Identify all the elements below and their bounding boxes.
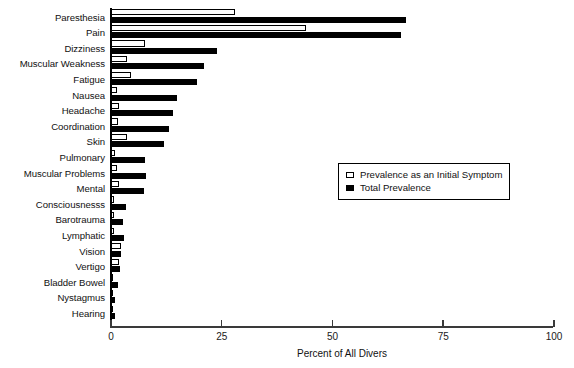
x-axis-title-text: Percent of All Divers [297,348,387,359]
category-label: Muscular Weakness [20,58,105,69]
bar-initial-symptom [111,181,119,187]
category-label: Bladder Bowel [44,276,105,287]
bar-total-prevalence [111,32,401,38]
chart-row: Hearing [0,304,574,321]
bar-total-prevalence [111,188,144,194]
bar-total-prevalence [111,251,121,257]
bar-initial-symptom [111,134,127,140]
bar-total-prevalence [111,235,124,241]
x-axis-tick-label: 75 [438,331,449,342]
x-axis-tick [553,320,555,327]
bar-total-prevalence [111,95,177,101]
y-axis-line [110,8,112,320]
bar-chart: ParesthesiaPainDizzinessMuscular Weaknes… [0,0,574,368]
category-label: Fatigue [73,74,105,85]
category-label: Vision [79,245,105,256]
bar-initial-symptom [111,118,118,124]
legend-label-total-prevalence: Total Prevalence [360,182,431,193]
category-label: Mental [77,183,106,194]
bar-total-prevalence [111,141,164,147]
category-label: Headache [62,105,105,116]
bar-initial-symptom [111,40,145,46]
bar-initial-symptom [111,243,121,249]
bar-total-prevalence [111,79,197,85]
bar-initial-symptom [111,103,119,109]
x-axis-tick [442,320,444,327]
chart-rows: ParesthesiaPainDizzinessMuscular Weaknes… [0,0,574,312]
x-axis-tick-label: 100 [546,331,563,342]
category-label: Paresthesia [55,11,105,22]
category-label: Muscular Problems [24,167,105,178]
bar-initial-symptom [111,259,119,265]
category-label: Dizziness [64,42,105,53]
legend-item-total-prevalence: Total Prevalence [346,181,502,194]
legend-item-initial-symptom: Prevalence as an Initial Symptom [346,168,502,181]
bar-initial-symptom [111,25,306,31]
legend-swatch-open-square-icon [346,172,354,178]
x-axis-tick [332,320,334,327]
bar-total-prevalence [111,173,146,179]
category-label: Pulmonary [60,152,105,163]
x-axis-tick-label: 0 [108,331,114,342]
category-label: Vertigo [75,261,105,272]
category-label: Coordination [51,120,105,131]
category-label: Barotrauma [55,214,105,225]
bar-total-prevalence [111,63,204,69]
bar-total-prevalence [111,157,145,163]
bar-initial-symptom [111,9,235,15]
legend-label-initial-symptom: Prevalence as an Initial Symptom [360,169,502,180]
category-label: Consciousnesss [36,198,105,209]
bar-total-prevalence [111,204,126,210]
bar-initial-symptom [111,72,131,78]
x-axis-tick-label: 50 [327,331,338,342]
category-label: Nystagmus [57,292,105,303]
category-label: Nausea [72,89,105,100]
bar-total-prevalence [111,219,123,225]
bar-total-prevalence [111,17,406,23]
x-axis-tick [110,320,112,327]
bar-total-prevalence [111,48,217,54]
bar-total-prevalence [111,266,120,272]
bar-initial-symptom [111,56,127,62]
category-label: Hearing [72,308,105,319]
x-axis-title: Percent of All Divers [0,348,574,359]
x-axis-tick [221,320,223,327]
bar-total-prevalence [111,110,173,116]
chart-legend: Prevalence as an Initial Symptom Total P… [338,163,510,200]
category-label: Skin [87,136,105,147]
category-label: Pain [86,27,105,38]
x-axis-tick-label: 25 [216,331,227,342]
category-label: Lymphatic [62,230,105,241]
bar-total-prevalence [111,126,169,132]
legend-swatch-filled-square-icon [346,185,354,191]
